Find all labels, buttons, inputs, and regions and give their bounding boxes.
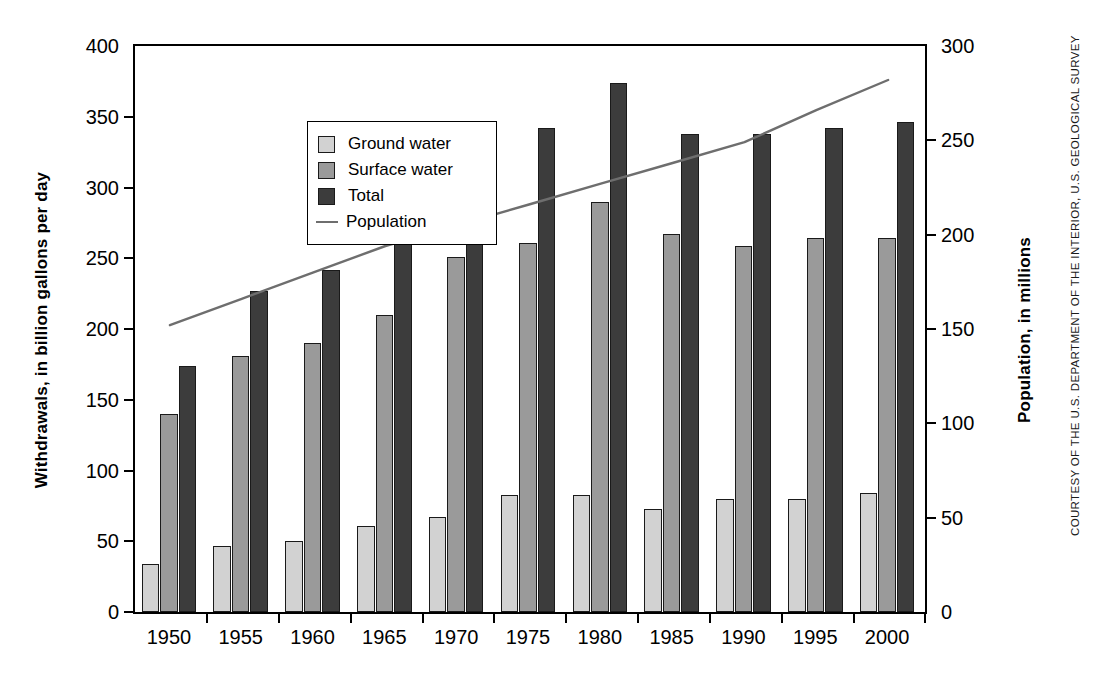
x-axis-tick-label: 1980 — [578, 626, 623, 649]
legend-line-icon — [316, 221, 338, 223]
bar-surface-1960 — [304, 343, 322, 612]
legend-item-total: Total — [318, 183, 484, 209]
legend-item-ground-water: Ground water — [318, 131, 484, 157]
bar-surface-1995 — [807, 238, 825, 612]
y-axis-left-tick-label: 150 — [86, 390, 119, 410]
y-axis-right-tick-mark — [927, 422, 936, 424]
x-axis-tick-label: 1995 — [793, 626, 838, 649]
bar-ground-1980 — [573, 495, 591, 612]
y-axis-right-title: Population, in millions — [1015, 120, 1035, 540]
legend-swatch-icon — [318, 136, 335, 153]
bar-surface-2000 — [878, 238, 896, 612]
x-axis-tick-mark — [350, 614, 352, 623]
bar-surface-1980 — [591, 202, 609, 612]
legend-item-label: Ground water — [348, 134, 451, 154]
bar-total-1965 — [394, 229, 412, 612]
y-axis-left-tick-label: 100 — [86, 461, 119, 481]
bar-surface-1965 — [376, 315, 394, 612]
legend-item-label: Surface water — [348, 160, 453, 180]
y-axis-right-tick-label: 300 — [941, 36, 974, 56]
bar-total-1955 — [250, 291, 268, 612]
y-axis-left-tick-label: 200 — [86, 319, 119, 339]
bar-ground-1995 — [788, 499, 806, 612]
y-axis-left-tick-label: 350 — [86, 107, 119, 127]
x-axis-tick-label: 1950 — [147, 626, 192, 649]
legend-item-surface-water: Surface water — [318, 157, 484, 183]
y-axis-right-tick-label: 200 — [941, 225, 974, 245]
x-axis-tick-mark — [278, 614, 280, 623]
bar-surface-1990 — [735, 246, 753, 612]
y-axis-right-tick-label: 50 — [941, 508, 963, 528]
x-axis-tick-mark — [206, 614, 208, 623]
plot-area: 050100150200250300350400 050100150200250… — [133, 44, 927, 614]
y-axis-right-tick-mark — [927, 328, 936, 330]
bar-total-2000 — [897, 122, 915, 612]
bar-ground-1990 — [716, 499, 734, 612]
bar-ground-1955 — [213, 546, 231, 613]
bar-total-1985 — [681, 134, 699, 612]
y-axis-right-tick-mark — [927, 234, 936, 236]
y-axis-left-tick-mark — [124, 611, 133, 613]
x-axis-tick-mark — [565, 614, 567, 623]
legend-swatch-icon — [318, 188, 335, 205]
x-axis-tick-mark — [493, 614, 495, 623]
bar-ground-1965 — [357, 526, 375, 612]
bar-ground-1985 — [644, 509, 662, 612]
bar-total-1995 — [825, 128, 843, 612]
legend-item-population: Population — [318, 209, 484, 235]
bar-total-1980 — [610, 83, 628, 612]
y-axis-right-tick-label: 100 — [941, 413, 974, 433]
x-axis-tick-label: 1955 — [218, 626, 263, 649]
x-axis-tick-mark — [709, 614, 711, 623]
bar-ground-1970 — [429, 517, 447, 612]
y-axis-right-tick-mark — [927, 139, 936, 141]
bar-ground-2000 — [860, 493, 878, 612]
bar-total-1960 — [322, 270, 340, 612]
bar-surface-1950 — [160, 414, 178, 612]
y-axis-left-tick-label: 400 — [86, 36, 119, 56]
y-axis-left-tick-mark — [124, 399, 133, 401]
y-axis-left-title: Withdrawals, in billion gallons per day — [32, 120, 52, 540]
x-axis-tick-mark — [853, 614, 855, 623]
y-axis-right-tick-label: 0 — [941, 602, 952, 622]
y-axis-left-tick-mark — [124, 187, 133, 189]
bar-ground-1950 — [142, 564, 160, 612]
y-axis-right-tick-label: 150 — [941, 319, 974, 339]
x-axis-tick-label: 1960 — [290, 626, 335, 649]
y-axis-left-tick-label: 50 — [97, 531, 119, 551]
y-axis-left-tick-mark — [124, 116, 133, 118]
x-axis-tick-label: 1975 — [506, 626, 551, 649]
y-axis-left-tick-label: 300 — [86, 178, 119, 198]
y-axis-left-tick-label: 0 — [108, 602, 119, 622]
legend-item-label: Population — [346, 212, 426, 232]
bar-ground-1960 — [285, 541, 303, 612]
credit-text: COURTESY OF THE U.S. DEPARTMENT OF THE I… — [1069, 116, 1081, 536]
x-axis-tick-label: 1970 — [434, 626, 479, 649]
legend-item-label: Total — [348, 186, 384, 206]
x-axis-tick-label: 1965 — [362, 626, 407, 649]
y-axis-left-tick-label: 250 — [86, 248, 119, 268]
y-axis-right-tick-mark — [927, 517, 936, 519]
y-axis-right-tick-label: 250 — [941, 130, 974, 150]
x-axis-tick-mark — [637, 614, 639, 623]
y-axis-left-tick-mark — [124, 540, 133, 542]
x-axis-tick-mark — [924, 614, 926, 623]
x-axis-tick-label: 1985 — [649, 626, 694, 649]
bar-surface-1975 — [519, 243, 537, 612]
bar-total-1990 — [753, 134, 771, 612]
bar-groups — [135, 46, 925, 612]
x-axis-tick-label: 2000 — [865, 626, 910, 649]
bar-surface-1955 — [232, 356, 250, 612]
bar-total-1950 — [179, 366, 197, 612]
bar-surface-1985 — [663, 234, 681, 612]
bar-surface-1970 — [447, 257, 465, 612]
bar-ground-1975 — [501, 495, 519, 612]
x-axis-tick-mark — [781, 614, 783, 623]
chart-legend: Ground waterSurface waterTotalPopulation — [307, 121, 497, 245]
y-axis-left-tick-mark — [124, 470, 133, 472]
x-axis-tick-label: 1990 — [721, 626, 766, 649]
y-axis-left-tick-mark — [124, 328, 133, 330]
legend-swatch-icon — [318, 162, 335, 179]
chart-figure: Withdrawals, in billion gallons per day … — [0, 0, 1106, 678]
bar-total-1975 — [538, 128, 556, 612]
